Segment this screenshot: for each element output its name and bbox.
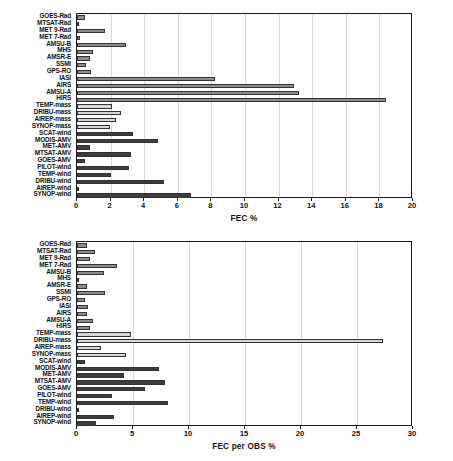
x-axis-title-bottom: FEC per OBS % xyxy=(76,442,412,451)
bar-met-7-rad xyxy=(77,264,117,268)
tick-label: 6 xyxy=(175,202,179,210)
bar-row xyxy=(77,145,411,149)
bar-dribu-wind xyxy=(77,180,164,184)
bar-row xyxy=(77,104,411,108)
tick-label: 16 xyxy=(341,202,349,210)
bar-row xyxy=(77,394,411,398)
tick-label: 10 xyxy=(240,202,248,210)
bar-row xyxy=(77,250,411,254)
tick-label: 14 xyxy=(307,202,315,210)
bar-synop-mass xyxy=(77,353,126,357)
bar-row xyxy=(77,77,411,81)
bar-row xyxy=(77,98,411,102)
bar-row xyxy=(77,326,411,330)
bar-temp-wind xyxy=(77,401,168,405)
bar-row xyxy=(77,271,411,275)
bar-mtsat-amv xyxy=(77,380,165,384)
bar-gps-ro xyxy=(77,298,85,302)
bar-row xyxy=(77,319,411,323)
bar-series-bottom xyxy=(77,242,411,425)
bar-airep-wind xyxy=(77,415,114,419)
y-axis-label: SYNOP-wind xyxy=(33,419,71,425)
bar-hirs xyxy=(77,98,386,102)
tick-label: 15 xyxy=(240,430,248,438)
figure-fec-barcharts: GOES-RadMTSAT-RadMET 9-RadMET 7-RadAMSU-… xyxy=(0,0,453,461)
bar-row xyxy=(77,373,411,377)
tick-label: 10 xyxy=(184,430,192,438)
bar-row xyxy=(77,401,411,405)
plot-area-top xyxy=(76,13,412,198)
tick-label: 18 xyxy=(374,202,382,210)
bar-amsr-e xyxy=(77,56,90,60)
bar-row xyxy=(77,166,411,170)
bar-row xyxy=(77,91,411,95)
bar-amsu-b xyxy=(77,271,104,275)
x-axis-title-top: FEC % xyxy=(76,214,412,223)
bar-row xyxy=(77,415,411,419)
bar-goes-amv xyxy=(77,159,85,163)
bar-hirs xyxy=(77,326,90,330)
bar-pilot-wind xyxy=(77,166,129,170)
bar-met-amv xyxy=(77,145,90,149)
bar-row xyxy=(77,84,411,88)
bar-row xyxy=(77,63,411,67)
bar-met-9-rad xyxy=(77,29,105,33)
bar-goes-amv xyxy=(77,387,145,391)
bar-row xyxy=(77,187,411,191)
bar-ssmi xyxy=(77,63,86,67)
bar-row xyxy=(77,257,411,261)
bar-row xyxy=(77,243,411,247)
bar-row xyxy=(77,284,411,288)
bar-amsu-a xyxy=(77,91,299,95)
tick-label: 5 xyxy=(130,430,134,438)
bar-goes-rad xyxy=(77,15,85,19)
y-axis-label: SYNOP-wind xyxy=(33,191,71,197)
bar-row xyxy=(77,360,411,364)
bar-temp-wind xyxy=(77,173,111,177)
bar-row xyxy=(77,15,411,19)
tick-label: 8 xyxy=(208,202,212,210)
bar-mhs xyxy=(77,50,93,54)
bar-series-top xyxy=(77,14,411,197)
bar-row xyxy=(77,408,411,412)
bar-row xyxy=(77,132,411,136)
bar-mtsat-rad xyxy=(77,250,95,254)
tick-label: 20 xyxy=(296,430,304,438)
bar-amsr-e xyxy=(77,284,87,288)
bar-met-amv xyxy=(77,373,124,377)
y-axis-labels-bottom: GOES-RadMTSAT-RadMET 9-RadMET 7-RadAMSU-… xyxy=(0,241,74,426)
tick-label: 0 xyxy=(74,202,78,210)
bar-row xyxy=(77,312,411,316)
bar-row xyxy=(77,111,411,115)
bar-scat-wind xyxy=(77,360,85,364)
bar-row xyxy=(77,139,411,143)
bar-row xyxy=(77,387,411,391)
bar-row xyxy=(77,291,411,295)
bar-scat-wind xyxy=(77,132,133,136)
x-axis-ticks-top: 02468101214161820 xyxy=(76,198,412,212)
bar-row xyxy=(77,152,411,156)
bar-row xyxy=(77,380,411,384)
bar-amsu-b xyxy=(77,43,126,47)
chart-panel-fec-percent: GOES-RadMTSAT-RadMET 9-RadMET 7-RadAMSU-… xyxy=(0,0,453,232)
bar-row xyxy=(77,70,411,74)
plot-area-bottom xyxy=(76,241,412,426)
bar-modis-amv xyxy=(77,367,159,371)
tick-label: 20 xyxy=(408,202,416,210)
bar-airs xyxy=(77,84,294,88)
bar-row xyxy=(77,339,411,343)
bar-row xyxy=(77,346,411,350)
bar-synop-mass xyxy=(77,125,110,129)
bar-row xyxy=(77,118,411,122)
bar-row xyxy=(77,159,411,163)
bar-temp-mass xyxy=(77,104,112,108)
bar-amsu-a xyxy=(77,319,93,323)
x-axis-ticks-bottom: 051015202530 xyxy=(76,426,412,440)
bar-met-9-rad xyxy=(77,257,90,261)
bar-row xyxy=(77,50,411,54)
bar-pilot-wind xyxy=(77,394,112,398)
bar-dribu-wind xyxy=(77,408,79,412)
chart-panel-fec-per-obs: GOES-RadMTSAT-RadMET 9-RadMET 7-RadAMSU-… xyxy=(0,232,453,461)
bar-row xyxy=(77,353,411,357)
tick-label: 12 xyxy=(273,202,281,210)
